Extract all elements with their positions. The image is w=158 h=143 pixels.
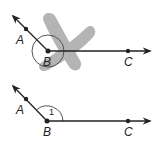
bottom-figure: A B C 1 <box>13 86 150 139</box>
label-b: B <box>43 55 51 69</box>
diagram-svg: A B C A B C 1 <box>0 0 158 143</box>
label-angle-1: 1 <box>49 107 54 117</box>
point-a <box>24 97 28 101</box>
point-c <box>126 49 130 53</box>
angle-diagram: A B C A B C 1 <box>0 0 158 143</box>
point-b <box>46 49 51 54</box>
point-c <box>126 119 130 123</box>
label-a: A <box>15 103 24 117</box>
label-a: A <box>15 33 24 47</box>
label-c: C <box>124 125 133 139</box>
label-b: B <box>43 125 51 139</box>
point-b <box>45 119 50 124</box>
top-figure: A B C <box>13 13 150 71</box>
label-c: C <box>124 55 133 69</box>
point-a <box>24 27 28 31</box>
